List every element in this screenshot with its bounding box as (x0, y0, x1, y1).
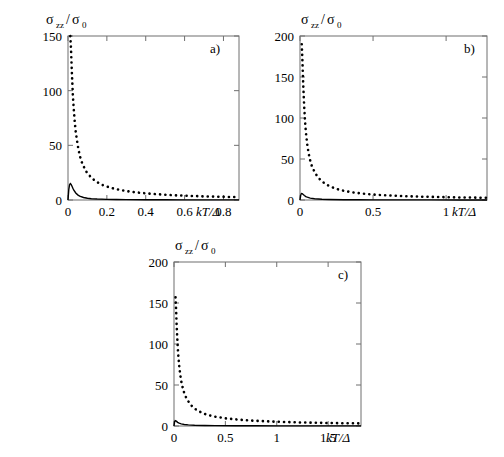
panel-b-ylabel-slash: / (321, 12, 325, 27)
c-plot-yticklabel: 100 (149, 337, 169, 352)
panel-c-ylabel-group: σ zz / σ 0 (175, 238, 216, 256)
b-plot-xticklabel: 0.5 (365, 204, 381, 219)
c-plot-yticklabel: 150 (149, 296, 169, 311)
c-plot-frame (174, 262, 361, 426)
a-plot-yticklabel: 0 (56, 193, 63, 208)
c-plot-yticklabel: 200 (149, 255, 169, 270)
c-plot-yticklabel: 50 (155, 378, 168, 393)
chart-panel-a: σ zz / σ 0 00.20.40.60.8050100150 a) kT/… (0, 0, 252, 228)
a-plot-frame (68, 36, 239, 200)
c-plot-curve-dotted (176, 297, 361, 423)
c-plot-yticklabel: 0 (162, 419, 169, 434)
panel-c-ylabel-sub-0: 0 (211, 246, 216, 256)
a-plot-xticklabel: 0.2 (99, 204, 115, 219)
figure-three-panel-plot: σ zz / σ 0 00.20.40.60.8050100150 a) kT/… (0, 0, 504, 457)
b-plot-xticklabel: 0 (297, 204, 304, 219)
panel-b-plot-area: 00.51050100150200 (275, 29, 488, 219)
panel-a-xlabel: kT/Δ (196, 204, 221, 219)
panel-b-ylabel-sub-zz: zz (311, 20, 319, 30)
panel-b-svg: σ zz / σ 0 00.51050100150200 b) kT/Δ (252, 0, 504, 228)
a-plot-yticklabel: 50 (49, 138, 62, 153)
b-plot-curve-dotted (302, 44, 487, 198)
panel-a-plot-area: 00.20.40.60.8050100150 (43, 29, 240, 219)
chart-panel-b: σ zz / σ 0 00.51050100150200 b) kT/Δ (252, 0, 504, 228)
panel-a-ylabel-sigma: σ (46, 12, 54, 27)
panel-b-ylabel-sigma: σ (301, 12, 309, 27)
a-plot-xticklabel: 0.4 (138, 204, 155, 219)
panel-b-tag: b) (464, 41, 475, 56)
panel-c-ylabel-slash: / (195, 238, 199, 253)
a-plot-yticklabel: 100 (43, 84, 63, 99)
panel-c-ylabel-sigma: σ (175, 238, 183, 253)
panel-c-svg: σ zz / σ 0 00.511.5050100150200 c) kT/Δ (126, 228, 378, 457)
panel-c-plot-area: 00.511.5050100150200 (149, 255, 362, 445)
panel-b-xlabel: kT/Δ (452, 204, 477, 219)
a-plot-xticklabel: 0 (65, 204, 72, 219)
a-plot-yticklabel: 150 (43, 29, 63, 44)
b-plot-yticklabel: 200 (275, 29, 295, 44)
b-plot-yticklabel: 100 (275, 111, 295, 126)
panel-a-tag: a) (210, 41, 220, 56)
panel-a-ylabel-sigma0: σ (72, 12, 80, 27)
panel-b-ylabel-sub-0: 0 (337, 20, 342, 30)
panel-c-ylabel-sigma0: σ (201, 238, 209, 253)
panel-a-ylabel-sub-0: 0 (82, 20, 87, 30)
panel-a-ylabel-group: σ zz / σ 0 (46, 12, 87, 30)
b-plot-frame (300, 36, 487, 200)
b-plot-yticklabel: 0 (288, 193, 295, 208)
c-plot-xticklabel: 0.5 (217, 430, 233, 445)
b-plot-yticklabel: 50 (281, 152, 294, 167)
a-plot-curve-dotted (70, 36, 239, 197)
b-plot-xticklabel: 1 (443, 204, 450, 219)
panel-b-ylabel-sigma0: σ (327, 12, 335, 27)
a-plot-xticklabel: 0.6 (176, 204, 193, 219)
c-plot-xticklabel: 0 (171, 430, 178, 445)
panel-a-svg: σ zz / σ 0 00.20.40.60.8050100150 a) kT/… (0, 0, 252, 228)
panel-c-ylabel-sub-zz: zz (185, 246, 193, 256)
b-plot-yticklabel: 150 (275, 70, 295, 85)
panel-c-tag: c) (338, 267, 348, 282)
c-plot-xticklabel: 1 (273, 430, 280, 445)
panel-b-ylabel-group: σ zz / σ 0 (301, 12, 342, 30)
panel-c-xlabel: kT/Δ (326, 430, 351, 445)
panel-a-ylabel-slash: / (66, 12, 70, 27)
chart-panel-c: σ zz / σ 0 00.511.5050100150200 c) kT/Δ (126, 228, 378, 457)
